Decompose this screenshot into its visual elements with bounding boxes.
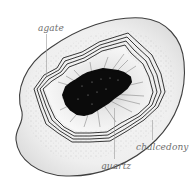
label-chalcedony: chalcedony [136, 143, 189, 152]
geode-diagram [0, 0, 193, 182]
label-agate: agate [38, 24, 64, 33]
label-quartz: quartz [101, 162, 131, 171]
